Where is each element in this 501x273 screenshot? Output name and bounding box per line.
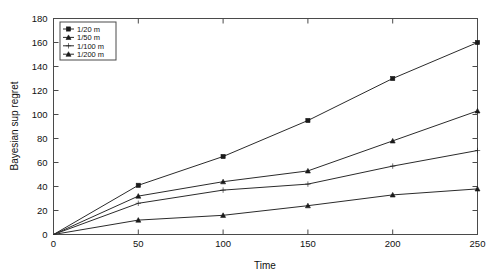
data-point bbox=[136, 183, 140, 187]
data-point bbox=[475, 40, 479, 44]
y-tick-label: 0 bbox=[42, 229, 47, 240]
y-axis-label: Bayesian sup regret bbox=[9, 81, 20, 170]
y-tick-label: 180 bbox=[32, 13, 48, 24]
data-point bbox=[306, 118, 310, 122]
x-tick-label: 200 bbox=[385, 238, 401, 249]
series-3 bbox=[54, 148, 481, 235]
x-tick-label: 150 bbox=[300, 238, 316, 249]
legend-item-label: 1/200 m bbox=[77, 50, 104, 59]
series-line bbox=[54, 189, 478, 235]
y-axis-tick-labels: 020406080100120140160180 bbox=[32, 13, 48, 240]
x-axis-label: Time bbox=[254, 260, 276, 271]
x-tick-label: 50 bbox=[133, 238, 144, 249]
y-tick-label: 140 bbox=[32, 61, 48, 72]
x-tick-label: 100 bbox=[215, 238, 231, 249]
series-line bbox=[54, 151, 478, 235]
axes-frame bbox=[54, 19, 478, 235]
y-tick-label: 80 bbox=[37, 133, 48, 144]
data-series-group bbox=[54, 40, 481, 234]
data-point bbox=[66, 27, 70, 31]
y-tick-label: 100 bbox=[32, 109, 48, 120]
series-line bbox=[54, 111, 478, 235]
y-tick-label: 160 bbox=[32, 37, 48, 48]
y-tick-label: 40 bbox=[37, 181, 48, 192]
y-tick-label: 120 bbox=[32, 85, 48, 96]
line-chart: 020406080100120140160180 050100150200250… bbox=[0, 0, 501, 273]
data-point bbox=[391, 76, 395, 80]
y-axis-ticks bbox=[54, 19, 478, 235]
y-tick-label: 60 bbox=[37, 157, 48, 168]
data-point bbox=[475, 108, 480, 113]
chart-legend[interactable]: 1/20 m1/50 m1/100 m1/200 m bbox=[60, 22, 116, 60]
x-tick-label: 250 bbox=[470, 238, 486, 249]
data-point bbox=[221, 154, 225, 158]
series-2 bbox=[54, 108, 481, 234]
y-tick-label: 20 bbox=[37, 205, 48, 216]
x-axis-ticks bbox=[54, 19, 478, 235]
x-axis-tick-labels: 050100150200250 bbox=[51, 238, 486, 249]
chart-figure: 020406080100120140160180 050100150200250… bbox=[0, 0, 501, 273]
x-tick-label: 0 bbox=[51, 238, 56, 249]
